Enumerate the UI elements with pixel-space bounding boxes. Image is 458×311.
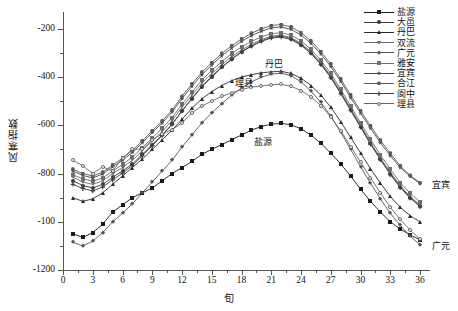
- data-point: [339, 87, 343, 91]
- x-tick-label: 6: [111, 275, 135, 285]
- legend-line-swatch: [364, 52, 394, 53]
- x-tick-label: 15: [200, 275, 224, 285]
- legend-item[interactable]: 丹巴: [364, 27, 458, 37]
- series-annotation: 丹巴: [265, 57, 283, 70]
- data-point: [339, 129, 343, 133]
- y-tick-label: -800: [13, 169, 55, 178]
- data-point: [408, 191, 412, 195]
- legend-marker-circle-icon: [377, 20, 381, 24]
- data-point: [190, 159, 194, 163]
- data-point: [121, 156, 125, 160]
- x-tick-label: 24: [289, 275, 313, 285]
- data-point: [378, 153, 382, 157]
- x-tick-minor: [375, 270, 376, 273]
- data-point: [309, 84, 313, 88]
- data-point: [230, 138, 234, 142]
- x-tick-minor: [78, 270, 79, 273]
- x-tick-label: 9: [140, 275, 164, 285]
- data-point: [398, 205, 402, 209]
- data-point: [230, 79, 234, 83]
- data-point: [111, 182, 115, 186]
- legend-item[interactable]: 大邑: [364, 17, 458, 27]
- data-point: [349, 104, 353, 108]
- data-point: [279, 121, 283, 125]
- data-point: [230, 91, 234, 95]
- data-point: [101, 165, 105, 169]
- data-point: [91, 197, 95, 201]
- data-point: [71, 232, 75, 236]
- data-point: [121, 162, 125, 166]
- data-point: [150, 186, 154, 190]
- data-point: [359, 121, 363, 125]
- x-tick-label: 21: [259, 275, 283, 285]
- data-point: [200, 104, 204, 108]
- legend-item[interactable]: 雅安: [364, 58, 458, 68]
- data-point: [130, 155, 134, 159]
- data-point: [309, 133, 313, 137]
- legend-item[interactable]: 合江: [364, 78, 458, 88]
- data-point: [170, 172, 174, 176]
- data-point: [220, 60, 224, 64]
- x-tick-label: 36: [408, 275, 432, 285]
- x-tick-label: 27: [319, 275, 343, 285]
- legend-line-swatch: [364, 42, 394, 43]
- x-tick-minor: [108, 270, 109, 273]
- legend-item[interactable]: 宜宾: [364, 68, 458, 78]
- legend-line-swatch: [364, 12, 394, 13]
- data-point: [378, 181, 382, 185]
- legend-item[interactable]: 阆中: [364, 89, 458, 99]
- legend-label: 盐源: [397, 7, 415, 17]
- legend-line-swatch: [364, 63, 394, 64]
- data-point: [210, 147, 214, 151]
- data-point: [339, 120, 343, 124]
- legend-item[interactable]: 理县: [364, 99, 458, 109]
- data-point: [240, 133, 244, 137]
- y-tick-label: -100: [13, 217, 55, 226]
- data-point: [220, 84, 224, 88]
- data-point: [190, 90, 194, 94]
- data-point: [160, 179, 164, 183]
- data-point: [319, 141, 323, 145]
- data-point: [111, 169, 115, 173]
- legend-item[interactable]: 盐源: [364, 7, 458, 17]
- legend-marker-ring-icon: [377, 102, 381, 106]
- data-point: [299, 89, 303, 93]
- data-point: [349, 174, 353, 178]
- legend-label: 丹巴: [397, 27, 415, 37]
- data-point: [259, 35, 263, 39]
- data-point: [388, 167, 392, 171]
- legend-item[interactable]: 双流: [364, 38, 458, 48]
- legend-marker-dtriangle-icon: [377, 41, 381, 45]
- data-point: [309, 95, 313, 99]
- x-tick-minor: [137, 270, 138, 273]
- data-point: [398, 217, 402, 221]
- data-point: [418, 220, 422, 224]
- legend-marker-hex-icon: [377, 81, 381, 85]
- data-point: [101, 176, 105, 180]
- data-point: [388, 194, 392, 198]
- data-point: [349, 135, 353, 139]
- data-point: [368, 176, 372, 180]
- data-point: [130, 147, 134, 151]
- data-point: [418, 200, 422, 204]
- x-tick-minor: [286, 270, 287, 273]
- data-point: [210, 68, 214, 72]
- data-point: [170, 116, 174, 120]
- data-point: [140, 147, 144, 151]
- legend-label: 理县: [397, 99, 415, 109]
- data-point: [319, 104, 323, 108]
- data-point: [190, 111, 194, 115]
- data-point: [279, 82, 283, 86]
- legend-line-swatch: [364, 73, 394, 74]
- data-point: [259, 84, 263, 88]
- chart-legend: 盐源大邑丹巴双流广元雅安宜宾合江阆中理县: [364, 7, 458, 109]
- data-point: [121, 203, 125, 207]
- legend-item[interactable]: 广元: [364, 48, 458, 58]
- data-point: [160, 138, 164, 142]
- data-point: [349, 145, 353, 149]
- data-point: [200, 78, 204, 82]
- data-point: [230, 51, 234, 55]
- data-point: [388, 205, 392, 209]
- data-point: [130, 196, 134, 200]
- y-axis-title: 风寒指数: [6, 118, 21, 162]
